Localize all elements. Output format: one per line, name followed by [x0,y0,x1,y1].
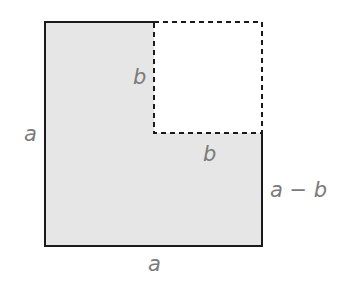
label-bottom-side: a [148,254,161,275]
dashed-removed-square [154,22,262,133]
label-left-side: a [24,124,37,145]
label-right-remainder: a − b [270,180,327,201]
label-inner-horizontal: b [203,144,216,165]
diagram-canvas [0,0,347,289]
label-inner-vertical: b [133,67,146,88]
